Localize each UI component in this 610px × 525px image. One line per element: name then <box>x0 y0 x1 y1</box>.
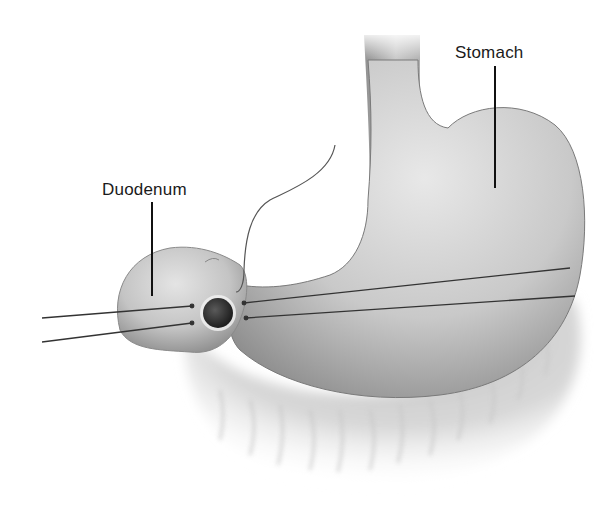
stomach <box>229 60 585 398</box>
stomach-diagram <box>0 0 610 525</box>
suture-curved <box>236 145 335 292</box>
duodenum-label: Duodenum <box>102 180 187 200</box>
stomach-label: Stomach <box>455 43 524 63</box>
pylorus <box>200 295 236 331</box>
